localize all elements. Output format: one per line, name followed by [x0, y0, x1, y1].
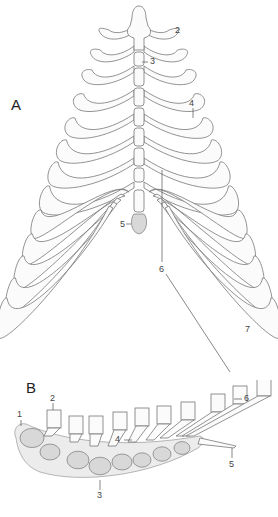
rib-left — [48, 158, 134, 188]
rib-right — [144, 90, 205, 112]
rib-right — [144, 136, 222, 163]
rib-stump — [181, 402, 195, 420]
rib-left — [82, 66, 134, 85]
sternebra-node — [67, 451, 89, 469]
sternebra — [134, 128, 144, 146]
xiphoid-process — [198, 438, 236, 448]
callout-3: 3 — [150, 56, 155, 66]
panel-a-ribcage-ventral: A 2 3 4 5 6 7 — [0, 0, 278, 380]
callout-6: 6 — [159, 264, 164, 274]
sternebra-node — [89, 457, 111, 475]
rib-stump — [47, 410, 61, 428]
panel-b-sternum-lateral: B 1 2 3 4 5 6 — [0, 380, 278, 517]
callout-3: 3 — [97, 490, 102, 500]
ribcage-illustration — [0, 0, 278, 380]
rib-stump — [135, 408, 149, 426]
callout-7: 7 — [245, 324, 250, 334]
panel-label-a: A — [11, 96, 21, 113]
leader-line-6b — [166, 274, 230, 372]
callout-4: 4 — [189, 98, 194, 108]
sternebra — [134, 168, 144, 182]
rib-stump — [113, 412, 127, 430]
sternebra — [134, 52, 144, 66]
callout-5: 5 — [120, 219, 125, 229]
callout-5: 5 — [229, 459, 234, 469]
sternebra-node — [112, 454, 132, 470]
callout-6: 6 — [244, 393, 249, 403]
sternebra-node — [153, 447, 171, 461]
sternebra — [134, 88, 144, 106]
sternebra-node — [20, 428, 44, 447]
costal-cartilage — [128, 426, 148, 442]
costal-cartilage — [186, 396, 270, 436]
rib-left — [73, 90, 134, 112]
manubrium — [127, 6, 150, 50]
rib-stump — [157, 406, 171, 424]
sternebra-node — [174, 442, 190, 455]
sternebra — [134, 108, 144, 126]
panel-label-b: B — [26, 379, 36, 396]
sternebra — [134, 190, 144, 212]
rib-stump — [211, 394, 225, 412]
sternebra — [134, 148, 144, 166]
rib-right — [144, 66, 196, 85]
rib-stump — [257, 380, 271, 396]
sternebra — [134, 68, 144, 86]
rib-left — [90, 46, 134, 62]
sternebra-node — [40, 444, 60, 460]
callout-2: 2 — [50, 393, 55, 403]
rib-left — [65, 114, 134, 138]
rib-stump — [89, 416, 103, 434]
callout-1: 1 — [17, 409, 22, 419]
rib-right — [144, 182, 239, 215]
rib-stump — [69, 416, 83, 434]
sternum-lateral-illustration — [0, 380, 278, 517]
callout-4: 4 — [115, 434, 120, 444]
rib-right — [144, 114, 213, 138]
rib-right — [144, 158, 230, 188]
sternebra-node — [133, 453, 151, 467]
callout-2: 2 — [175, 25, 180, 35]
rib-left — [39, 182, 134, 215]
xiphoid-cartilage — [131, 214, 146, 234]
rib-left — [56, 136, 134, 163]
